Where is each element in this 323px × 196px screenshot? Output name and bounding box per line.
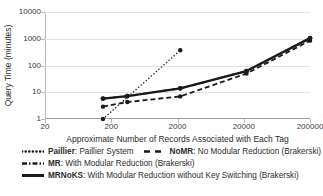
series-layer xyxy=(45,12,310,119)
legend-label: Paillier: Paillier System xyxy=(48,146,134,157)
legend-swatch-dashed-icon xyxy=(144,147,166,156)
legend-swatch-solid-icon xyxy=(22,171,44,180)
series-paillier xyxy=(101,48,183,121)
data-point xyxy=(308,36,313,41)
legend-row: MR: With Modular Reduction (Brakerski) xyxy=(22,158,318,169)
x-tick-label: 200000 xyxy=(297,123,323,131)
data-point xyxy=(178,48,182,52)
x-tick-label: 200 xyxy=(105,123,118,131)
y-tick-label: 100 xyxy=(28,62,41,70)
x-tick-label: 20 xyxy=(41,123,50,131)
y-axis-title: Query Time (minutes) xyxy=(2,12,14,119)
data-point xyxy=(125,94,130,99)
series-mrnoks xyxy=(101,36,313,101)
legend-label: MRNoKS: With Modular Reduction without K… xyxy=(48,170,299,181)
y-tick-label: 10000 xyxy=(19,8,41,16)
plot-area: 110100100010000 20200200020000200000 xyxy=(45,12,310,119)
legend-swatch-dash-dot-icon xyxy=(22,159,44,168)
legend-item-paillier[interactable]: Paillier: Paillier System xyxy=(22,146,134,157)
data-point xyxy=(101,104,105,108)
legend-label: MR: With Modular Reduction (Brakerski) xyxy=(48,158,195,169)
series-line xyxy=(103,50,180,119)
x-axis-title: Approximate Number of Records Associated… xyxy=(45,134,310,145)
chart-legend: Paillier: Paillier SystemNoMR: No Modula… xyxy=(22,146,318,182)
y-tick-label: 1000 xyxy=(23,35,41,43)
series-line xyxy=(103,41,310,107)
x-tick-label: 20000 xyxy=(233,123,255,131)
x-tick-label: 2000 xyxy=(169,123,187,131)
legend-item-nomr[interactable]: NoMR: No Modular Reduction (Brakerski) xyxy=(144,146,322,157)
series-nomr xyxy=(101,38,312,108)
chart-figure: Query Time (minutes) 110100100010000 202… xyxy=(0,0,323,196)
legend-label: NoMR: No Modular Reduction (Brakerski) xyxy=(170,146,322,157)
series-line xyxy=(103,38,310,98)
legend-swatch-dotted-icon xyxy=(22,147,44,156)
series-line xyxy=(103,38,310,98)
legend-row: Paillier: Paillier SystemNoMR: No Modula… xyxy=(22,146,318,157)
data-point xyxy=(101,96,106,101)
legend-item-mr[interactable]: MR: With Modular Reduction (Brakerski) xyxy=(22,158,195,169)
data-point xyxy=(178,86,183,91)
data-point xyxy=(244,69,249,74)
series-mr xyxy=(101,36,312,101)
data-point xyxy=(125,100,129,104)
data-point xyxy=(101,117,105,121)
data-point xyxy=(178,94,182,98)
legend-row: MRNoKS: With Modular Reduction without K… xyxy=(22,170,318,181)
legend-item-mrnoks[interactable]: MRNoKS: With Modular Reduction without K… xyxy=(22,170,299,181)
y-tick-label: 10 xyxy=(32,88,41,96)
